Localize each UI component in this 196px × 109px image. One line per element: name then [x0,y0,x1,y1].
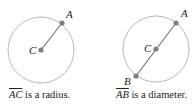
caption-segment-ab: AB [116,89,129,100]
caption-text-radius: is a radius. [22,89,70,100]
label-a-right: A [180,7,188,19]
point-a-right [173,20,178,25]
label-c-right: C [144,42,152,54]
point-c-right [153,46,158,51]
caption-segment-ac: AC [9,89,22,100]
label-c-left: C [29,44,37,56]
caption-text-diameter: is a diameter. [129,89,187,100]
caption-radius: AC is a radius. [9,89,70,100]
point-c-left [38,47,43,52]
point-a-left [59,20,64,25]
caption-diameter: AB is a diameter. [116,89,187,100]
segment-ac [41,23,62,50]
label-a-left: A [65,8,73,20]
label-b-right: B [124,75,131,87]
point-b-right [133,73,138,78]
radius-figure: C A [8,8,74,83]
diameter-figure: C A B [123,7,189,87]
